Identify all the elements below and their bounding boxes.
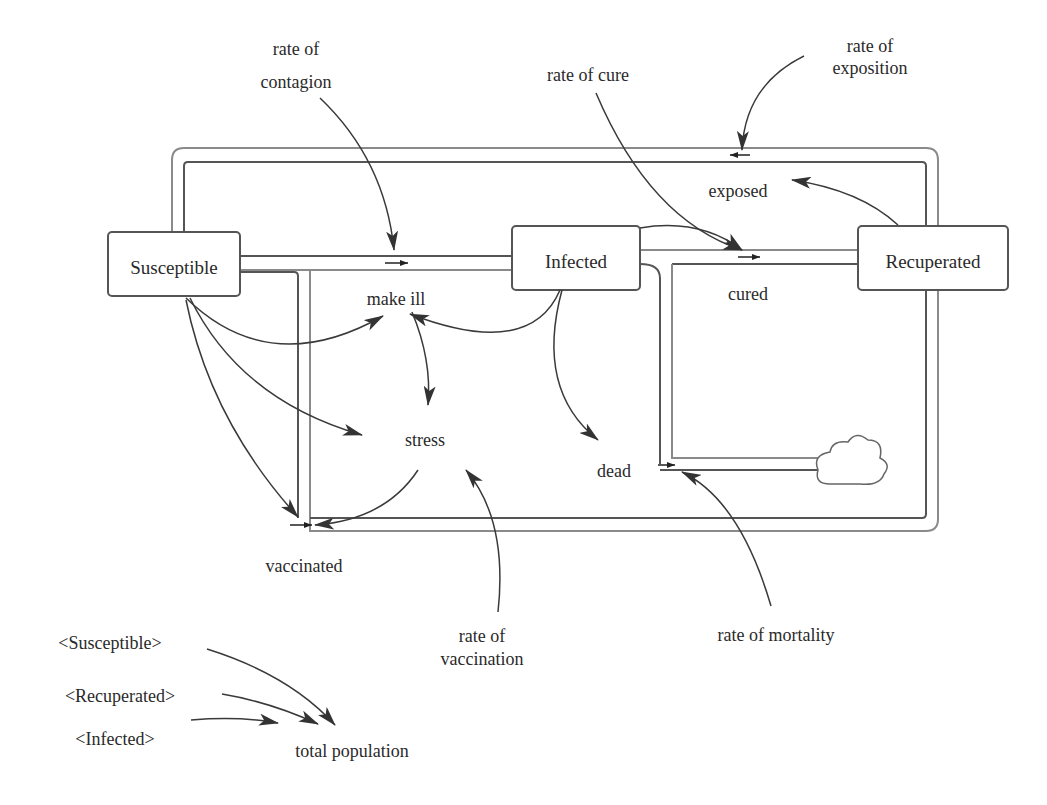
link-susceptible-to-stress: [190, 298, 362, 435]
aux-rate-of-contagion-line1: rate of: [273, 39, 319, 59]
link-stress-to-vaccinated: [315, 470, 418, 525]
link-susceptible-to-vaccinated: [186, 300, 298, 517]
link-vaccination-to-stress: [466, 470, 500, 612]
aux-rate-of-vaccination-line1: rate of: [459, 626, 505, 646]
cured-flow-pipe: [640, 250, 858, 264]
aux-rate-of-exposition-line1: rate of: [847, 36, 893, 56]
stock-flow-diagram: Susceptible Infected Recuperated rate of…: [0, 0, 1047, 805]
flow-dead-label: dead: [597, 461, 631, 481]
link-infected-to-cured: [640, 226, 742, 250]
link-contagion-to-make-ill: [320, 98, 394, 250]
aux-rate-of-exposition-line2: exposition: [833, 58, 908, 78]
stock-susceptible-label: Susceptible: [130, 257, 218, 278]
make-ill-flow-pipe: [240, 256, 512, 270]
link-shadow-recuperated-to-total: [222, 694, 318, 724]
cloud-icon: [817, 435, 888, 484]
vaccinated-flow-pipe: [240, 270, 938, 531]
link-exposition-to-exposed: [742, 56, 804, 150]
shadow-susceptible: <Susceptible>: [58, 633, 161, 653]
link-infected-to-make-ill: [410, 290, 560, 332]
flow-vaccinated-label: vaccinated: [266, 556, 343, 576]
aux-rate-of-mortality: rate of mortality: [718, 625, 835, 645]
shadow-recuperated: <Recuperated>: [65, 686, 175, 706]
flow-make-ill-label: make ill: [367, 289, 425, 309]
flow-cured-label: cured: [728, 284, 768, 304]
stock-recuperated-label: Recuperated: [886, 251, 981, 272]
flow-exposed-label: exposed: [709, 181, 768, 201]
shadow-infected: <Infected>: [75, 729, 154, 749]
aux-total-population: total population: [295, 741, 408, 761]
link-susceptible-to-make-ill: [186, 298, 383, 344]
stock-infected[interactable]: Infected: [512, 226, 640, 290]
aux-rate-of-cure: rate of cure: [547, 65, 629, 85]
aux-rate-of-contagion-line2: contagion: [261, 72, 332, 92]
aux-rate-of-vaccination-line2: vaccination: [441, 649, 524, 669]
exposed-flow-pipe: [172, 148, 938, 232]
stock-infected-label: Infected: [545, 251, 608, 272]
stock-recuperated[interactable]: Recuperated: [858, 226, 1008, 290]
stock-susceptible[interactable]: Susceptible: [108, 232, 240, 296]
link-infected-to-dead: [554, 290, 598, 440]
link-make-ill-to-stress: [412, 312, 429, 405]
link-recuperated-to-exposed: [792, 180, 898, 225]
aux-stress: stress: [405, 430, 445, 450]
link-mortality-to-dead: [682, 472, 771, 606]
link-shadow-infected-to-total: [191, 719, 278, 723]
link-shadow-susceptible-to-total: [207, 649, 335, 725]
